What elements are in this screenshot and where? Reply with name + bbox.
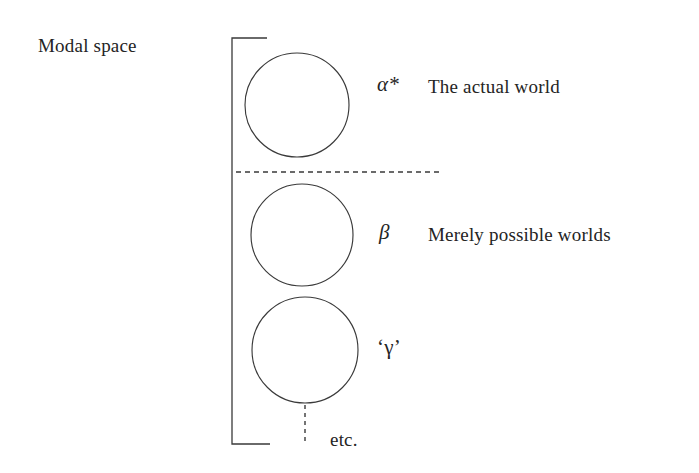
world-circle-beta (251, 184, 353, 286)
world-symbol-beta: β (379, 222, 390, 243)
world-circle-gamma (252, 297, 358, 403)
world-circle-alpha (245, 53, 349, 157)
etcetera-label: etc. (330, 430, 358, 449)
world-description-beta: Merely possible worlds (428, 225, 611, 244)
modal-space-diagram: Modal space α* The actual world β Merely… (0, 0, 699, 473)
world-description-alpha: The actual world (428, 77, 560, 96)
world-symbol-gamma: ‘γ’ (377, 337, 401, 358)
modal-space-title: Modal space (38, 36, 137, 55)
world-symbol-alpha: α* (377, 74, 399, 95)
